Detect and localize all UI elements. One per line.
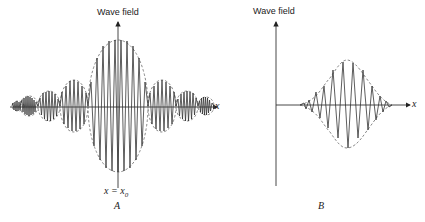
- panel-b: [276, 22, 410, 186]
- center-marker-subscript: 0: [125, 191, 129, 199]
- panel-a-oscillation: [12, 40, 214, 172]
- panel-b-x-axis-label: x: [412, 98, 416, 109]
- panel-a-label: A: [114, 200, 120, 211]
- panel-b-y-axis-label: Wave field: [253, 6, 295, 16]
- panel-a-center-marker: x = x0: [104, 185, 128, 199]
- panel-b-label: B: [318, 200, 324, 211]
- panel-a-x-axis-label: x: [215, 100, 219, 111]
- figure-canvas: [0, 0, 425, 222]
- center-marker-text: x = x: [104, 185, 125, 196]
- panel-a: [10, 22, 217, 188]
- panel-a-y-axis-label: Wave field: [97, 7, 139, 17]
